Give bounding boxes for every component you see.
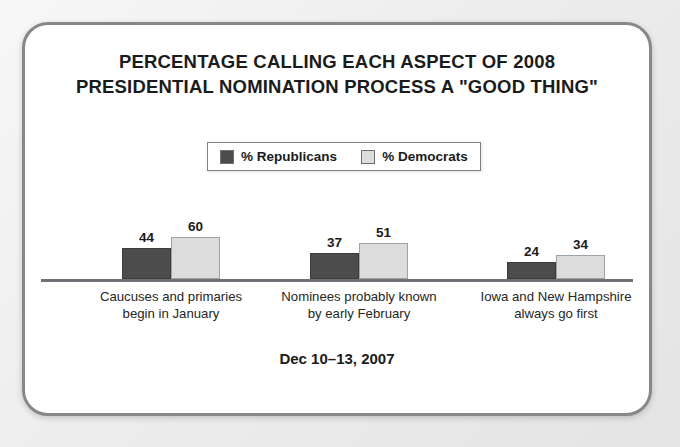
chart-canvas: PERCENTAGE CALLING EACH ASPECT OF 2008 P… bbox=[0, 0, 680, 447]
category-label-line: begin in January bbox=[71, 305, 271, 322]
bar-pair: 2434 bbox=[507, 25, 605, 279]
chart-footer-date: Dec 10–13, 2007 bbox=[25, 350, 649, 367]
category-label-line: by early February bbox=[259, 305, 459, 322]
bar-pair: 3751 bbox=[310, 25, 408, 279]
bar-democrats[interactable] bbox=[171, 237, 220, 279]
bar-value-label: 34 bbox=[573, 237, 588, 252]
chart-card: PERCENTAGE CALLING EACH ASPECT OF 2008 P… bbox=[22, 22, 652, 416]
category-label: Caucuses and primariesbegin in January bbox=[71, 288, 271, 322]
bar-value-label: 60 bbox=[188, 219, 203, 234]
bar-democrats[interactable] bbox=[359, 243, 408, 279]
bar-democrats[interactable] bbox=[556, 255, 605, 279]
category-label-line: Iowa and New Hampshire bbox=[456, 288, 656, 305]
bar-value-label: 24 bbox=[524, 244, 539, 259]
bar-republicans[interactable] bbox=[122, 248, 171, 279]
category-label: Nominees probably knownby early February bbox=[259, 288, 459, 322]
axis-baseline bbox=[41, 279, 633, 282]
bar-republicans[interactable] bbox=[507, 262, 556, 279]
bar-value-label: 51 bbox=[376, 225, 391, 240]
category-label: Iowa and New Hampshirealways go first bbox=[456, 288, 656, 322]
category-label-line: always go first bbox=[456, 305, 656, 322]
category-label-line: Caucuses and primaries bbox=[71, 288, 271, 305]
category-label-line: Nominees probably known bbox=[259, 288, 459, 305]
bar-republicans[interactable] bbox=[310, 253, 359, 279]
bar-value-label: 37 bbox=[327, 235, 342, 250]
bar-group: 2434 bbox=[436, 25, 676, 279]
bar-pair: 4460 bbox=[122, 25, 220, 279]
bar-value-label: 44 bbox=[139, 230, 154, 245]
